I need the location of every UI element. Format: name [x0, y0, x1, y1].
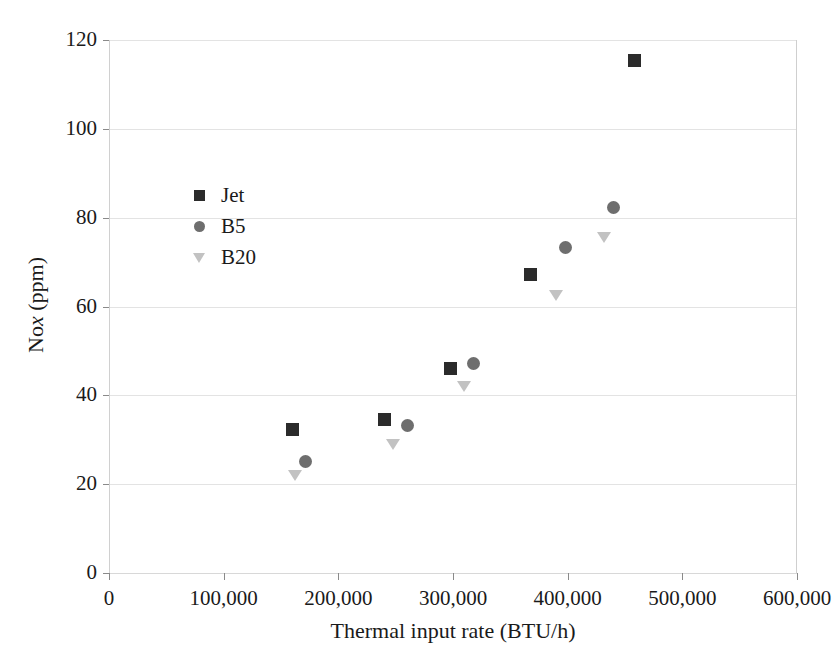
data-point-b20: [597, 232, 611, 243]
legend-label: B20: [221, 247, 256, 268]
plot-area: [109, 40, 797, 573]
x-tick-mark: [338, 573, 339, 580]
legend-item-b5: B5: [188, 211, 256, 242]
x-tick-mark: [109, 573, 110, 580]
data-point-b5: [401, 419, 414, 432]
data-point-jet: [444, 362, 457, 375]
legend-label: Jet: [221, 185, 244, 206]
scatter-chart-figure: 020406080100120 0100,000200,000300,00040…: [0, 0, 838, 661]
data-point-b20: [386, 439, 400, 450]
data-point-b5: [607, 201, 620, 214]
square-icon: [194, 190, 205, 201]
circle-icon: [194, 221, 205, 232]
x-tick-mark: [224, 573, 225, 580]
legend-item-b20: B20: [188, 242, 256, 273]
data-point-b20: [457, 381, 471, 392]
data-point-b5: [559, 241, 572, 254]
y-axis-title-italic: x: [23, 316, 48, 326]
data-point-jet: [628, 54, 641, 67]
y-tick-label: 0: [37, 562, 97, 583]
data-point-jet: [524, 268, 537, 281]
chart-legend: JetB5B20: [188, 180, 256, 273]
x-tick-mark: [682, 573, 683, 580]
y-axis-title-pre: No: [23, 326, 48, 353]
legend-item-jet: Jet: [188, 180, 256, 211]
legend-marker-icon: [188, 190, 210, 201]
data-point-b20: [549, 290, 563, 301]
y-axis-title-post: (ppm): [23, 257, 48, 316]
data-point-jet: [378, 413, 391, 426]
data-point-b5: [467, 357, 480, 370]
x-tick-mark: [797, 573, 798, 580]
triangle-down-icon: [193, 253, 205, 263]
legend-marker-icon: [188, 221, 210, 232]
x-tick-mark: [453, 573, 454, 580]
y-tick-label: 20: [37, 473, 97, 494]
data-point-b5: [299, 455, 312, 468]
legend-marker-icon: [188, 253, 210, 263]
data-point-b20: [288, 470, 302, 481]
y-tick-label: 120: [37, 29, 97, 50]
x-tick-mark: [568, 573, 569, 580]
x-tick-label: 600,000: [727, 586, 838, 610]
data-point-jet: [286, 423, 299, 436]
legend-label: B5: [221, 216, 246, 237]
x-axis-title: Thermal input rate (BTU/h): [109, 618, 797, 644]
y-axis-title: Nox (ppm): [23, 135, 49, 475]
